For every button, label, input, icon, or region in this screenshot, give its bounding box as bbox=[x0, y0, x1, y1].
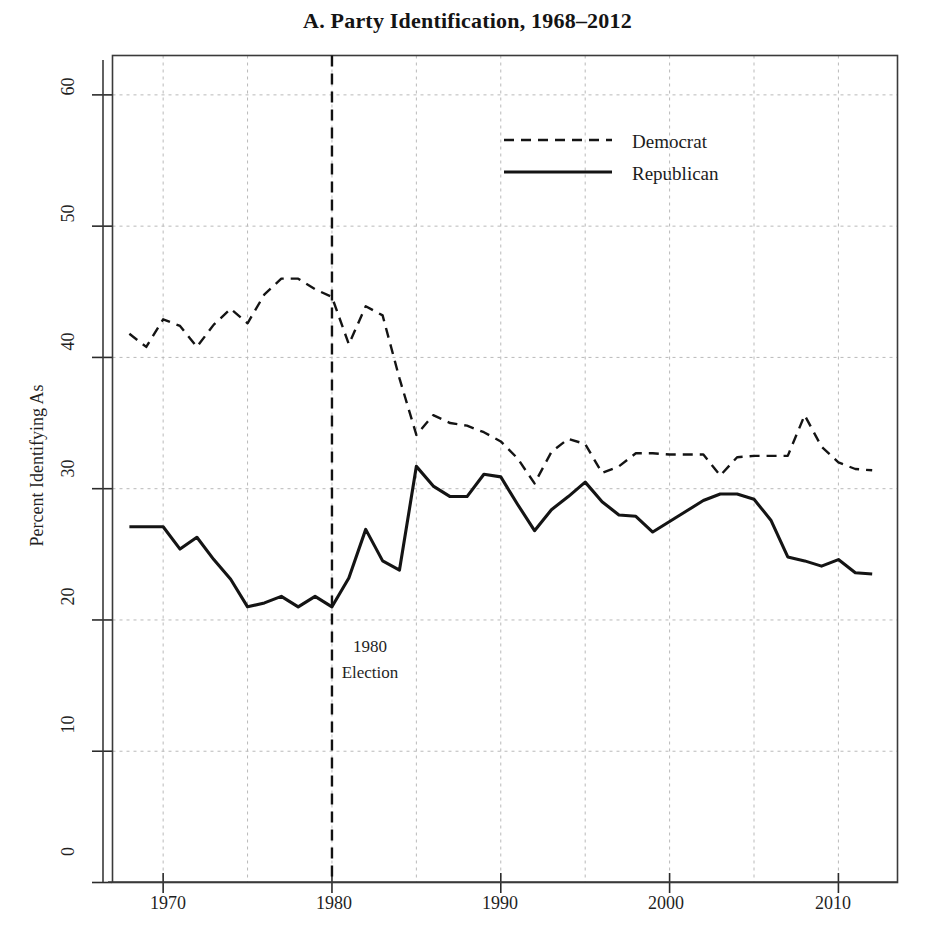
plot-frame bbox=[113, 56, 898, 883]
series-line-republican bbox=[129, 466, 872, 606]
chart-figure: A. Party Identification, 1968–2012 Perce… bbox=[0, 0, 935, 937]
x-gridlines bbox=[163, 56, 838, 883]
y-gridlines bbox=[113, 95, 898, 883]
plot-canvas bbox=[0, 0, 935, 937]
